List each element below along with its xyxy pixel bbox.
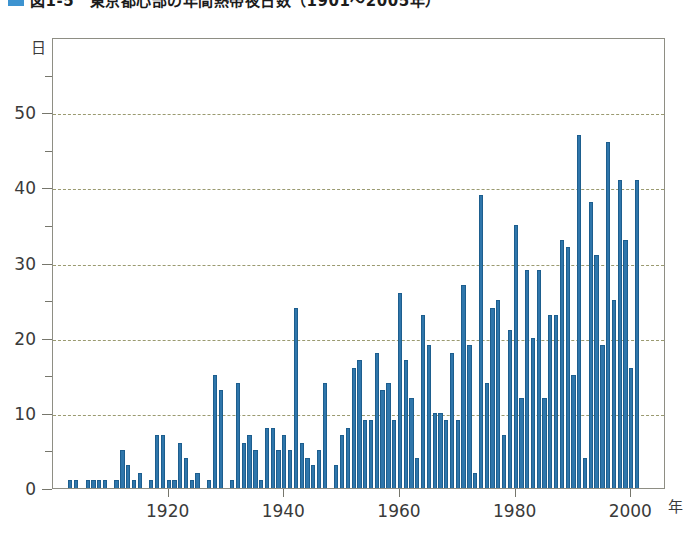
bar [433, 413, 437, 488]
bar [618, 180, 622, 488]
bar [91, 480, 95, 488]
bar [190, 480, 194, 488]
x-axis-label-1920: 1920 [138, 501, 198, 521]
bar [594, 255, 598, 488]
bar [288, 450, 292, 488]
bar [548, 315, 552, 488]
bar [103, 480, 107, 488]
bar [352, 368, 356, 488]
y-axis-label-20: 20 [2, 329, 36, 349]
bar [300, 443, 304, 488]
bar [311, 465, 315, 488]
plot-area [52, 38, 665, 489]
bar [114, 480, 118, 488]
bar [392, 420, 396, 488]
bar [589, 202, 593, 488]
bar [323, 383, 327, 488]
bar [531, 338, 535, 488]
bar [276, 450, 280, 488]
bar [305, 458, 309, 488]
bar [334, 465, 338, 488]
bar [525, 270, 529, 488]
bar-chart: 日 年 01020304050 19201940196019802000 [0, 12, 695, 547]
bar [398, 293, 402, 488]
bar [86, 480, 90, 488]
bar [571, 375, 575, 488]
bar [502, 435, 506, 488]
bar [271, 428, 275, 488]
y-tick-minor-45 [45, 151, 52, 152]
bar [635, 180, 639, 488]
x-axis-label-1960: 1960 [369, 501, 429, 521]
bar [606, 142, 610, 488]
bar [340, 435, 344, 488]
x-axis-label-2000: 2000 [600, 501, 660, 521]
bar [253, 450, 257, 488]
bar [629, 368, 633, 488]
y-tick-30 [42, 264, 52, 265]
bar [386, 383, 390, 488]
y-tick-40 [42, 188, 52, 189]
caption-title: 図1-5 東京都心部の年間熱帯夜日数（1901～2005年） [30, 0, 441, 10]
bar [612, 300, 616, 488]
bar [514, 225, 518, 488]
y-tick-0 [42, 489, 52, 490]
bar [583, 458, 587, 488]
bar [172, 480, 176, 488]
bar [427, 345, 431, 488]
bar [577, 135, 581, 488]
bar [566, 247, 570, 488]
y-axis-label-0: 0 [2, 479, 36, 499]
bar [97, 480, 101, 488]
y-tick-minor-55 [45, 76, 52, 77]
bar [126, 465, 130, 488]
bar [375, 353, 379, 488]
x-tick-1940 [283, 489, 284, 497]
bar [265, 428, 269, 488]
y-axis-label-50: 50 [2, 103, 36, 123]
bar [421, 315, 425, 488]
bar [213, 375, 217, 488]
bar [438, 413, 442, 488]
y-axis-label-40: 40 [2, 178, 36, 198]
bar [415, 458, 419, 488]
bar [230, 480, 234, 488]
bar [490, 308, 494, 488]
bar [461, 285, 465, 488]
bar [149, 480, 153, 488]
x-tick-2000 [630, 489, 631, 497]
bar [317, 450, 321, 488]
bar [456, 420, 460, 488]
bar [167, 480, 171, 488]
x-axis-label-1980: 1980 [485, 501, 545, 521]
bar [68, 480, 72, 488]
bar [236, 383, 240, 488]
bar [369, 420, 373, 488]
bar [542, 398, 546, 488]
bar [132, 480, 136, 488]
x-tick-1920 [168, 489, 169, 497]
bar [219, 390, 223, 488]
bar [485, 383, 489, 488]
bar [294, 308, 298, 488]
y-axis-unit-label: 日 [31, 36, 46, 57]
bar [178, 443, 182, 488]
bar [120, 450, 124, 488]
bar [138, 473, 142, 488]
bar [363, 420, 367, 488]
bar [357, 360, 361, 488]
bar [184, 458, 188, 488]
bar [479, 195, 483, 488]
y-tick-10 [42, 414, 52, 415]
bar [247, 435, 251, 488]
y-axis-label-10: 10 [2, 404, 36, 424]
y-tick-minor-15 [45, 376, 52, 377]
blue-square-marker-icon [8, 0, 24, 6]
bar [467, 345, 471, 488]
bar [195, 473, 199, 488]
y-tick-minor-5 [45, 451, 52, 452]
bar [444, 420, 448, 488]
bar [554, 315, 558, 488]
bar [537, 270, 541, 488]
bar [242, 443, 246, 488]
